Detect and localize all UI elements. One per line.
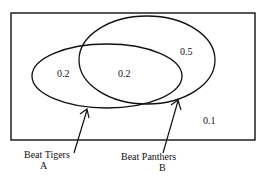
venn-diagram: 0.2 0.2 0.5 0.1 Beat Tigers A Beat Panth… [0, 0, 264, 177]
region-intersection-value: 0.2 [118, 68, 131, 79]
set-a-name: Beat Tigers [24, 149, 70, 160]
region-b-only-value: 0.5 [180, 46, 193, 57]
set-a-ellipse [32, 44, 182, 108]
region-a-only-value: 0.2 [57, 68, 70, 79]
set-b-name: Beat Panthers [121, 151, 176, 162]
set-b-ellipse [79, 16, 215, 104]
region-neither-value: 0.1 [203, 115, 216, 126]
set-b-letter: B [159, 162, 166, 173]
arrow-b-icon [163, 100, 181, 153]
set-a-letter: A [40, 160, 48, 171]
arrow-a-icon [74, 109, 89, 153]
universe-rectangle [11, 13, 255, 140]
